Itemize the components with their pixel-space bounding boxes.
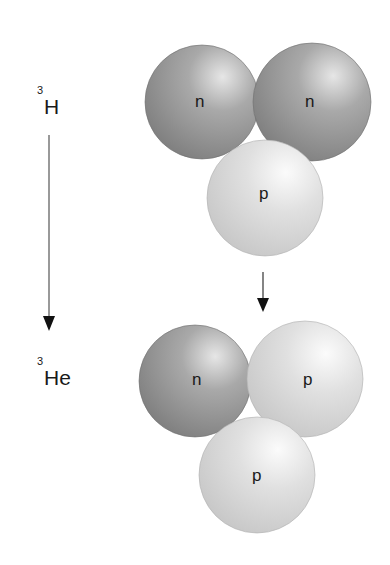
helium3-nucleus [139, 321, 363, 533]
particle-label: p [303, 370, 312, 390]
decay-arrow-center [257, 272, 269, 312]
element-symbol: H [44, 95, 59, 119]
particle-label: n [192, 370, 201, 390]
decay-arrow-left [43, 135, 55, 331]
particle-label: n [305, 92, 314, 112]
beta-decay-diagram [0, 0, 390, 565]
mass-number: 3 [37, 84, 43, 96]
mass-number: 3 [37, 355, 43, 367]
element-symbol: He [44, 366, 71, 390]
particle-label: p [252, 466, 261, 486]
tritium-nucleus [145, 43, 371, 256]
particle-label: p [259, 184, 268, 204]
particle-label: n [195, 92, 204, 112]
